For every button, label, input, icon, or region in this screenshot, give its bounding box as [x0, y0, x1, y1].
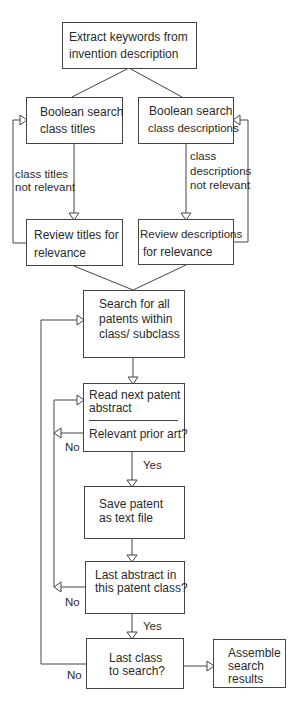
node-text: Save patent [99, 497, 163, 512]
edge-label: class titles [15, 167, 68, 181]
node-extract-keywords: Extract keywords from invention descript… [62, 22, 197, 69]
node-text: relevance [34, 246, 86, 261]
node-text: results [228, 672, 263, 687]
node-text: Boolean search [149, 104, 232, 119]
node-text: as text file [99, 511, 153, 526]
node-text: Review descriptions [140, 227, 242, 242]
node-last-class: Last class to search? [86, 638, 184, 689]
decision-text: Relevant prior art? [89, 427, 188, 442]
node-text: Search for all [99, 297, 170, 312]
edge-label-no: No [67, 668, 82, 682]
edge-label-yes: Yes [143, 458, 162, 472]
node-review-titles: Review titles for relevance [26, 219, 123, 266]
node-divider [89, 420, 178, 421]
node-text: to search? [109, 664, 165, 679]
node-text: this patent class? [95, 581, 188, 596]
node-text: for relevance [143, 245, 212, 260]
arrowhead-left [54, 428, 61, 438]
node-text: patents within [99, 312, 172, 327]
edge-label-yes: Yes [143, 619, 162, 633]
edge-label: not relevant [15, 180, 75, 194]
edge-label-no: No [65, 440, 80, 454]
node-text: abstract [89, 401, 132, 416]
node-text: class descriptions [148, 121, 239, 136]
node-read-next-abstract: Read next patent abstract Relevant prior… [83, 383, 185, 452]
node-text: class titles [40, 122, 95, 137]
edge-label: class [190, 149, 216, 163]
node-text: invention description [69, 47, 178, 62]
node-assemble-results: Assemble search results [213, 639, 286, 688]
node-search-all-patents: Search for all patents within class/ sub… [83, 290, 185, 358]
node-last-abstract: Last abstract in this patent class? [85, 561, 185, 614]
node-boolean-titles: Boolean search class titles [26, 97, 123, 144]
node-save-patent: Save patent as text file [84, 486, 185, 539]
edge-label: descriptions [190, 164, 251, 178]
node-text: class/ subclass [99, 327, 180, 342]
node-boolean-descriptions: Boolean search class descriptions [138, 97, 234, 144]
node-text: Review titles for [34, 228, 119, 243]
arrowhead-left [54, 582, 61, 592]
node-text: Extract keywords from [69, 30, 188, 45]
node-text: Boolean search [40, 105, 123, 120]
node-review-descriptions: Review descriptions for relevance [138, 219, 234, 265]
edge-label: not relevant [190, 178, 250, 192]
edge-label-no: No [65, 595, 80, 609]
